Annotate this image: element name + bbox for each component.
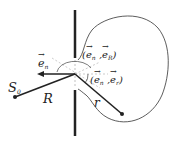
paren-close: ): [119, 74, 123, 85]
sub-0: 0: [17, 88, 21, 95]
e-vec: e: [86, 50, 92, 60]
source-label: S0: [8, 81, 21, 95]
sub-n: n: [45, 63, 49, 70]
sub-n: n: [100, 79, 104, 86]
r-label: r: [94, 97, 100, 109]
normal-vector-label: en: [38, 58, 48, 70]
angle-arc: [57, 61, 91, 72]
arrow-head-icon: [37, 71, 44, 77]
R-label: R: [43, 92, 53, 105]
e-vec: e: [94, 75, 100, 85]
source-point-S0: [13, 95, 17, 99]
closed-surface-curve: [78, 16, 168, 122]
paren-close: ): [113, 49, 117, 60]
e-vec: e: [110, 75, 116, 85]
diagram-graphics: [0, 0, 173, 143]
e-vec: e: [102, 50, 108, 60]
observation-point-P: [120, 112, 124, 116]
angle-arc-small: [85, 74, 88, 83]
sub-n: n: [92, 54, 96, 61]
e-vec: e: [38, 58, 45, 69]
diffraction-diagram: en S0 R r (en ,eR) (en ,er): [0, 0, 173, 143]
angle-label-nr: (en ,er): [90, 75, 123, 86]
angle-label-nR: (en ,eR): [82, 50, 116, 61]
S: S: [8, 80, 17, 95]
